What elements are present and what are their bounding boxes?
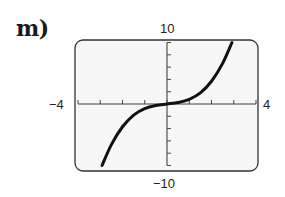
graph-plot bbox=[0, 0, 285, 197]
y-min-label: −10 bbox=[153, 176, 175, 191]
x-max-label: 4 bbox=[263, 97, 270, 112]
y-max-label: 10 bbox=[160, 21, 174, 36]
x-min-label: −4 bbox=[49, 97, 64, 112]
